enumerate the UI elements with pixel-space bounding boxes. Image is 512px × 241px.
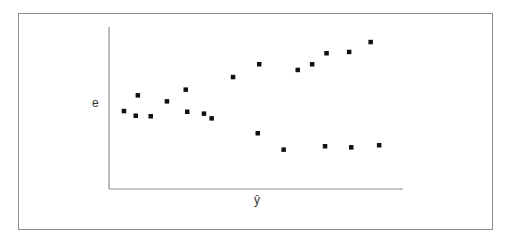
data-point-marker: [349, 145, 354, 150]
data-point-marker: [134, 114, 139, 119]
data-point-marker: [184, 87, 189, 92]
data-point-marker: [281, 147, 286, 152]
data-point-marker: [209, 116, 214, 121]
data-point-marker: [202, 111, 207, 116]
data-point-marker: [324, 51, 329, 56]
data-point-marker: [256, 131, 261, 136]
data-point-marker: [347, 50, 352, 55]
data-point-marker: [296, 68, 301, 73]
data-point-marker: [231, 75, 236, 80]
data-point-marker: [122, 109, 127, 114]
data-point-marker: [323, 144, 328, 149]
y-axis-label: e: [92, 97, 99, 109]
data-points: [122, 40, 382, 152]
data-point-marker: [149, 114, 154, 119]
data-point-marker: [257, 62, 262, 67]
data-point-marker: [185, 110, 190, 115]
data-point-marker: [165, 99, 170, 104]
x-axis-label: ŷ: [254, 194, 260, 206]
data-point-marker: [368, 40, 373, 45]
data-point-marker: [377, 143, 382, 148]
data-point-marker: [310, 62, 315, 67]
data-point-marker: [136, 93, 141, 98]
